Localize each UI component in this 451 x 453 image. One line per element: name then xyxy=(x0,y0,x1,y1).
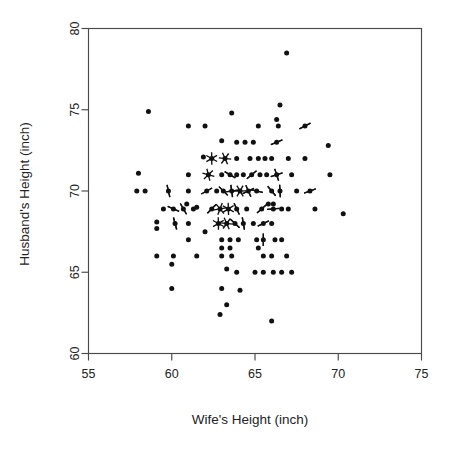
data-point-dot xyxy=(289,270,294,275)
data-point xyxy=(294,189,299,194)
data-point xyxy=(284,254,289,259)
data-point xyxy=(256,124,261,129)
data-point xyxy=(266,202,271,207)
data-point xyxy=(243,140,248,145)
data-point-dot xyxy=(269,319,274,324)
data-point xyxy=(184,202,189,207)
data-point-dot xyxy=(238,288,243,293)
data-point xyxy=(251,140,256,145)
data-point xyxy=(234,203,239,214)
data-point-dot xyxy=(214,189,219,194)
data-point xyxy=(264,172,269,177)
data-point-dot xyxy=(294,189,299,194)
data-point-dot xyxy=(228,237,233,242)
data-point xyxy=(271,169,283,181)
data-point xyxy=(312,206,317,211)
y-tick-label: 80 xyxy=(68,22,82,36)
data-point-dot xyxy=(234,156,239,161)
data-point-dot xyxy=(266,202,271,207)
y-tick-label: 65 xyxy=(68,265,82,279)
data-point xyxy=(136,171,141,176)
data-point xyxy=(201,154,206,159)
data-point-dot xyxy=(203,124,208,129)
data-point xyxy=(219,286,224,291)
data-point-dot xyxy=(161,206,166,211)
data-point xyxy=(267,206,279,211)
data-point-dot xyxy=(256,156,261,161)
data-point xyxy=(224,267,229,272)
data-point xyxy=(251,221,256,226)
data-point-dot xyxy=(269,254,274,259)
y-tick-label: 75 xyxy=(68,103,82,117)
data-point-dot xyxy=(279,237,284,242)
data-point xyxy=(225,172,236,178)
data-point xyxy=(186,172,191,177)
data-point xyxy=(271,270,276,275)
data-point xyxy=(173,218,178,230)
data-point-dot xyxy=(276,124,281,129)
data-point xyxy=(234,140,239,145)
data-point xyxy=(253,270,258,275)
data-point xyxy=(284,50,289,55)
data-point-dot xyxy=(234,172,239,177)
data-point xyxy=(154,254,159,259)
data-point-dot xyxy=(218,312,223,317)
data-point-dot xyxy=(277,102,282,107)
x-axis-title: Wife's Height (inch) xyxy=(192,412,309,427)
data-point-dot xyxy=(279,206,284,211)
data-point xyxy=(269,156,274,161)
data-point xyxy=(166,185,171,197)
data-point-dot xyxy=(194,254,199,259)
data-point xyxy=(234,172,239,177)
data-point-dot xyxy=(219,172,224,177)
x-tick-label: 65 xyxy=(248,367,262,381)
data-point xyxy=(191,206,196,211)
data-point-dot xyxy=(251,221,256,226)
data-point xyxy=(241,217,246,229)
data-point-dot xyxy=(219,254,224,259)
data-point xyxy=(241,172,246,177)
data-point xyxy=(234,270,239,275)
data-point-dot xyxy=(254,237,259,242)
data-point xyxy=(247,171,257,179)
x-tick-label: 75 xyxy=(415,367,429,381)
data-point xyxy=(214,189,219,194)
data-point xyxy=(234,186,246,197)
data-point-dot xyxy=(224,267,229,272)
data-point-dot xyxy=(279,270,284,275)
x-tick-label: 60 xyxy=(165,367,179,381)
data-point-dot xyxy=(171,254,176,259)
data-point xyxy=(134,189,139,194)
data-point-dot xyxy=(219,286,224,291)
data-point-dot xyxy=(302,156,307,161)
data-point-dot xyxy=(219,138,224,143)
data-point-dot xyxy=(286,206,291,211)
data-point-dot xyxy=(186,221,191,226)
data-point-petal xyxy=(268,186,276,195)
data-point xyxy=(154,226,159,231)
data-point-dot xyxy=(269,221,274,226)
data-point xyxy=(228,237,233,242)
data-point-dot xyxy=(284,254,289,259)
data-point-dot xyxy=(272,237,277,242)
data-point-dot xyxy=(203,229,208,234)
data-point xyxy=(219,254,224,259)
data-point xyxy=(186,124,191,129)
data-point-dot xyxy=(154,254,159,259)
x-tick-label: 55 xyxy=(82,367,96,381)
data-point xyxy=(168,206,179,211)
data-point-dot xyxy=(256,245,261,250)
data-point xyxy=(203,124,208,129)
data-point xyxy=(257,205,266,213)
data-point xyxy=(219,138,224,143)
data-point-dot xyxy=(146,109,151,114)
data-point-dot xyxy=(271,270,276,275)
data-point-dot xyxy=(289,172,294,177)
data-point xyxy=(261,270,266,275)
data-point-dot xyxy=(284,50,289,55)
data-point-dot xyxy=(312,206,317,211)
data-point-dot xyxy=(326,143,331,148)
data-point xyxy=(341,211,346,216)
x-axis-ticks: 5560657075 xyxy=(82,354,429,381)
data-point-dot xyxy=(286,156,291,161)
